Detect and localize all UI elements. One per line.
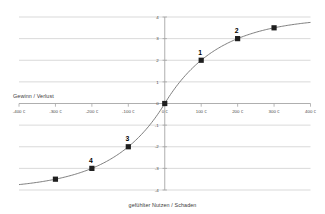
data-point-label: 3: [125, 135, 129, 142]
x-axis-title: Gewinn / Verlust: [13, 93, 54, 99]
y-tick-label: -4: [155, 188, 159, 193]
y-tick-label: -2: [155, 144, 159, 149]
data-point-marker: [162, 101, 167, 106]
data-point-marker: [89, 166, 94, 171]
x-tick-label: 300 €: [269, 109, 281, 114]
x-tick-label: -300 €: [49, 109, 62, 114]
data-point-marker: [235, 36, 240, 41]
x-tick-label: 200 €: [232, 109, 244, 114]
x-tick-label: 400 €: [305, 109, 317, 114]
x-tick-label: -200 €: [86, 109, 99, 114]
y-axis-title: gefühlter Nutzen / Schaden: [0, 202, 325, 208]
data-point-marker: [126, 144, 131, 149]
data-point-marker: [53, 177, 58, 182]
x-tick-label: 0 €: [162, 109, 169, 114]
x-tick-label: -100 €: [122, 109, 135, 114]
y-tick-label: -1: [155, 123, 159, 128]
data-point-label: 2: [235, 27, 239, 34]
y-tick-label: -3: [155, 166, 159, 171]
data-point-marker: [271, 25, 276, 30]
value-function-chart: 43210-1-2-3-4-400 €-300 €-200 €-100 €0 €…: [0, 0, 325, 214]
chart-plot-area: 43210-1-2-3-4-400 €-300 €-200 €-100 €0 €…: [0, 0, 325, 214]
x-tick-label: 100 €: [196, 109, 208, 114]
x-tick-label: -400 €: [13, 109, 26, 114]
data-point-label: 1: [198, 49, 202, 56]
data-point-marker: [199, 58, 204, 63]
data-point-label: 4: [89, 157, 93, 164]
